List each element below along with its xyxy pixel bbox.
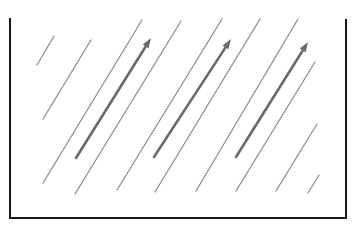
diagram-canvas (0, 0, 358, 233)
field-line-2 (43, 40, 91, 119)
field-line-1 (37, 36, 54, 65)
arrow-2 (154, 39, 231, 157)
arrow-3 (236, 42, 308, 157)
field-line-9 (276, 124, 317, 191)
field-line-7 (196, 19, 298, 191)
field-line-10 (308, 175, 319, 193)
field-lines (37, 19, 319, 194)
field-line-6 (155, 19, 260, 192)
field-line-5 (117, 19, 222, 190)
field-line-3 (43, 20, 142, 183)
field-line-4 (75, 21, 181, 194)
field-line-8 (236, 62, 315, 191)
arrows (76, 38, 308, 158)
arrow-shaft (154, 47, 226, 157)
arrow-1 (76, 38, 151, 158)
arrow-head-icon (143, 38, 151, 48)
arrow-shaft (76, 46, 146, 158)
